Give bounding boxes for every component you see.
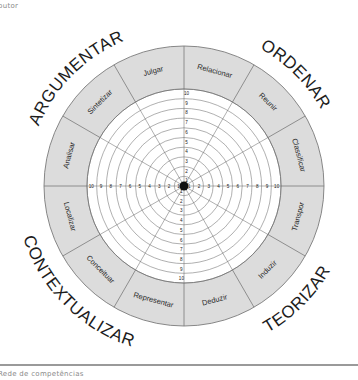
- scale-tick: 5: [139, 184, 142, 189]
- scale-tick: 4: [148, 184, 151, 189]
- scale-tick: 7: [185, 120, 188, 125]
- scale-tick: 9: [100, 184, 103, 189]
- scale-tick: 6: [180, 238, 183, 243]
- figure-caption: Rede de competências: [0, 370, 84, 378]
- competency-wheel: 1111222233334444555566667777888899991010…: [0, 0, 358, 380]
- scale-tick: 3: [207, 184, 210, 189]
- scale-tick: 7: [119, 184, 122, 189]
- scale-tick: 3: [158, 184, 161, 189]
- scale-tick: 5: [185, 140, 188, 145]
- scale-tick: 2: [185, 169, 188, 174]
- scale-tick: 8: [109, 184, 112, 189]
- scale-tick: 5: [180, 228, 183, 233]
- scale-tick: 8: [180, 257, 183, 262]
- scale-tick: 2: [168, 184, 171, 189]
- scale-tick: 6: [237, 184, 240, 189]
- scale-tick: 9: [185, 101, 188, 106]
- scale-tick: 7: [180, 247, 183, 252]
- scale-tick: 10: [184, 91, 190, 96]
- scale-tick: 4: [180, 218, 183, 223]
- scale-tick: 3: [180, 208, 183, 213]
- center-dot: [180, 182, 189, 191]
- scale-tick: 4: [185, 149, 188, 154]
- scale-tick: 10: [274, 184, 280, 189]
- scale-tick: 10: [179, 276, 185, 281]
- scale-tick: 7: [246, 184, 249, 189]
- scale-tick: 6: [185, 130, 188, 135]
- scale-tick: 3: [185, 159, 188, 164]
- scale-tick: 1: [188, 184, 191, 189]
- scale-tick: 9: [266, 184, 269, 189]
- scale-tick: 8: [185, 110, 188, 115]
- scale-tick: 5: [227, 184, 230, 189]
- scale-tick: 6: [129, 184, 132, 189]
- scale-tick: 10: [89, 184, 95, 189]
- scale-tick: 2: [198, 184, 201, 189]
- divider-rule: [0, 364, 358, 366]
- scale-tick: 8: [256, 184, 259, 189]
- scale-tick: 9: [180, 267, 183, 272]
- scale-tick: 2: [180, 199, 183, 204]
- scale-tick: 4: [217, 184, 220, 189]
